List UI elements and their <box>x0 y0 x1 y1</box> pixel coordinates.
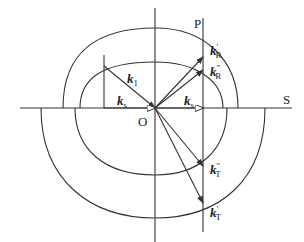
s-axis-label: S <box>283 92 290 107</box>
ks-right-label: ks <box>184 93 195 110</box>
origin-label: O <box>138 114 147 129</box>
kR-doubleprime-vector <box>155 70 203 108</box>
upper-inner-arc <box>80 62 223 108</box>
ks-left-label: ks <box>117 93 128 110</box>
kT-prime-label: k′T <box>210 204 221 222</box>
kT-prime-vector <box>155 108 203 203</box>
p-line-label: P <box>194 16 201 31</box>
kR-prime-label: k′R <box>210 42 221 60</box>
k1-label: k1 <box>127 71 138 88</box>
lower-inner-arc <box>75 108 227 175</box>
kT-doubleprime-label: k″T <box>210 161 221 179</box>
kT-doubleprime-vector <box>155 108 203 166</box>
kR-doubleprime-label: k″R <box>210 63 221 81</box>
lower-outer-arc <box>41 108 265 218</box>
wave-vector-diagram: O S P k1 ks ks k′R k″R k″T k′T <box>0 0 304 242</box>
